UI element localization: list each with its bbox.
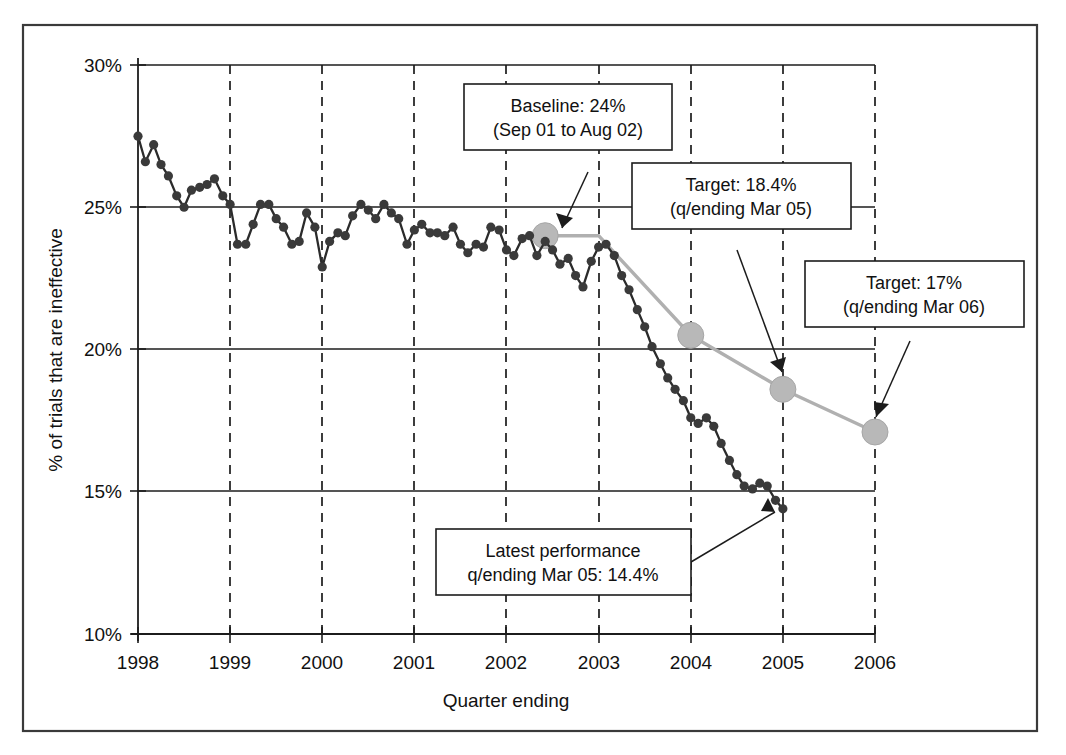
data-point bbox=[617, 271, 626, 280]
data-point bbox=[571, 271, 580, 280]
data-point bbox=[778, 504, 787, 513]
data-point bbox=[555, 260, 564, 269]
data-point bbox=[440, 231, 449, 240]
x-tick-label-2005: 2005 bbox=[762, 652, 804, 673]
y-tick-label-25: 25% bbox=[84, 197, 122, 218]
data-point bbox=[133, 132, 142, 141]
data-point bbox=[379, 200, 388, 209]
data-point bbox=[233, 240, 242, 249]
data-point bbox=[448, 223, 457, 232]
y-tick-label-10: 10% bbox=[84, 624, 122, 645]
annotation-target-mar-06-box bbox=[805, 261, 1024, 327]
data-point bbox=[179, 203, 188, 212]
data-point bbox=[210, 174, 219, 183]
annotation-baseline-box bbox=[464, 84, 672, 150]
data-point bbox=[241, 240, 250, 249]
target-marker bbox=[770, 376, 796, 402]
data-point bbox=[495, 225, 504, 234]
data-point bbox=[356, 200, 365, 209]
data-point bbox=[679, 396, 688, 405]
y-axis-title: % of trials that are ineffective bbox=[45, 228, 66, 472]
target-marker bbox=[862, 419, 888, 445]
annotation-baseline-line2: (Sep 01 to Aug 02) bbox=[493, 120, 643, 140]
x-tick-label-2000: 2000 bbox=[301, 652, 343, 673]
data-point bbox=[601, 240, 610, 249]
data-point bbox=[633, 305, 642, 314]
data-point bbox=[686, 413, 695, 422]
x-tick-label-2003: 2003 bbox=[578, 652, 620, 673]
data-point bbox=[647, 342, 656, 351]
data-point bbox=[548, 245, 557, 254]
data-point bbox=[709, 422, 718, 431]
x-tick-label-1999: 1999 bbox=[209, 652, 251, 673]
data-point bbox=[656, 359, 665, 368]
x-tick-label-2004: 2004 bbox=[670, 652, 713, 673]
data-point bbox=[725, 456, 734, 465]
data-point bbox=[149, 140, 158, 149]
data-point bbox=[410, 225, 419, 234]
data-point bbox=[564, 254, 573, 263]
data-point bbox=[364, 206, 373, 215]
data-point bbox=[456, 240, 465, 249]
data-point bbox=[387, 208, 396, 217]
data-point bbox=[717, 439, 726, 448]
data-point bbox=[587, 257, 596, 266]
annotation-baseline-line1: Baseline: 24% bbox=[510, 96, 625, 116]
data-point bbox=[463, 248, 472, 257]
data-point bbox=[172, 191, 181, 200]
data-point bbox=[417, 220, 426, 229]
data-point bbox=[732, 470, 741, 479]
x-axis-title: Quarter ending bbox=[443, 690, 570, 711]
data-point bbox=[771, 496, 780, 505]
x-tick-label-1998: 1998 bbox=[117, 652, 159, 673]
data-point bbox=[272, 214, 281, 223]
data-point bbox=[624, 285, 633, 294]
data-point bbox=[325, 237, 334, 246]
data-point bbox=[348, 211, 357, 220]
annotation-target-mar-05-box bbox=[632, 163, 851, 229]
annotation-latest-performance-box bbox=[436, 529, 691, 595]
x-tick-label-2001: 2001 bbox=[393, 652, 435, 673]
data-point bbox=[702, 413, 711, 422]
data-point bbox=[640, 322, 649, 331]
x-tick-label-2006: 2006 bbox=[854, 652, 896, 673]
target-marker bbox=[678, 322, 704, 348]
data-point bbox=[318, 262, 327, 271]
data-point bbox=[202, 180, 211, 189]
data-point bbox=[502, 245, 511, 254]
y-tick-label-30: 30% bbox=[84, 55, 122, 76]
data-point bbox=[394, 214, 403, 223]
annotation-target-mar-06-line1: Target: 17% bbox=[866, 273, 962, 293]
annotation-target-mar-05-line2: (q/ending Mar 05) bbox=[670, 199, 812, 219]
data-point bbox=[310, 223, 319, 232]
data-point bbox=[295, 237, 304, 246]
data-point bbox=[694, 419, 703, 428]
data-point bbox=[541, 237, 550, 246]
data-point bbox=[763, 481, 772, 490]
data-point bbox=[479, 242, 488, 251]
data-point bbox=[341, 231, 350, 240]
data-point bbox=[141, 157, 150, 166]
x-tick-label-2002: 2002 bbox=[485, 652, 527, 673]
data-point bbox=[610, 251, 619, 260]
y-tick-label-20: 20% bbox=[84, 339, 122, 360]
data-point bbox=[670, 385, 679, 394]
data-point bbox=[264, 200, 273, 209]
data-point bbox=[509, 251, 518, 260]
data-point bbox=[486, 223, 495, 232]
annotation-latest-performance-line1: Latest performance bbox=[485, 541, 640, 561]
data-point bbox=[302, 208, 311, 217]
annotation-target-mar-05-line1: Target: 18.4% bbox=[685, 175, 796, 195]
data-point bbox=[164, 171, 173, 180]
data-point bbox=[532, 251, 541, 260]
data-point bbox=[371, 214, 380, 223]
data-point bbox=[226, 200, 235, 209]
y-tick-label-15: 15% bbox=[84, 481, 122, 502]
data-point bbox=[218, 191, 227, 200]
data-point bbox=[525, 231, 534, 240]
annotation-target-mar-06-line2: (q/ending Mar 06) bbox=[843, 297, 985, 317]
data-point bbox=[256, 200, 265, 209]
annotation-latest-performance-line2: q/ending Mar 05: 14.4% bbox=[467, 565, 658, 585]
data-point bbox=[402, 240, 411, 249]
data-point bbox=[740, 481, 749, 490]
